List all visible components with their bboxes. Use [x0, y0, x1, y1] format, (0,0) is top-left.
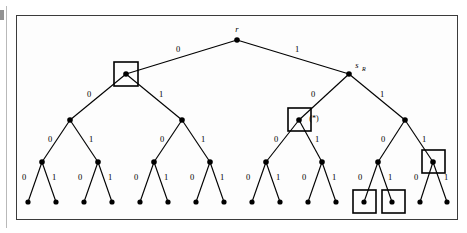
edge-label-22: 0: [246, 172, 250, 182]
edge-label-23: 1: [276, 172, 280, 182]
edge-label-5: 1: [380, 89, 384, 99]
tree-edge-n00-1: [70, 120, 98, 162]
edge-label-10: 0: [274, 134, 278, 144]
edge-label-26: 0: [358, 172, 362, 182]
edge-label-14: 0: [22, 172, 26, 182]
edge-label-20: 0: [190, 172, 194, 182]
tree-node-n0: [123, 71, 129, 77]
tree-node-l8: [249, 199, 254, 204]
edge-label-12: 0: [381, 134, 385, 144]
tree-node-l15: [444, 199, 449, 204]
edge-labels-group: 010101010101010101010101010101: [22, 44, 448, 182]
edge-label-4: 0: [311, 89, 315, 99]
tree-edge-n000-1: [42, 162, 56, 202]
tree-edge-n010-0: [140, 162, 154, 202]
tree-node-n110: [375, 159, 381, 165]
edge-label-17: 1: [108, 172, 112, 182]
tree-node-l2: [81, 199, 86, 204]
tree-node-n010: [151, 159, 157, 165]
tree-node-n11: [402, 117, 408, 123]
edge-label-2: 0: [87, 89, 91, 99]
tree-node-l11: [333, 199, 338, 204]
tree-edge-r-1: [237, 40, 349, 74]
tree-edge-n01-1: [182, 120, 210, 162]
tree-edge-n011-1: [210, 162, 224, 202]
tree-node-l13: [389, 199, 394, 204]
edge-label-27: 1: [388, 172, 392, 182]
edge-label-11: 1: [315, 134, 319, 144]
sr-label: s: [355, 60, 359, 70]
tree-edge-n000-0: [28, 162, 42, 202]
tree-node-l3: [109, 199, 114, 204]
edge-label-18: 0: [134, 172, 138, 182]
tree-edge-n001-0: [84, 162, 98, 202]
edge-label-3: 1: [159, 89, 163, 99]
edge-label-7: 1: [89, 134, 93, 144]
tree-node-n001: [95, 159, 101, 165]
tree-node-n10: [296, 117, 302, 123]
edge-label-1: 1: [295, 44, 299, 54]
tree-node-n1: [346, 71, 352, 77]
tree-edge-n0-0: [70, 74, 126, 120]
tree-edge-n001-1: [98, 162, 112, 202]
tree-edge-n11-1: [405, 120, 433, 162]
tree-node-l4: [137, 199, 142, 204]
edge-label-21: 1: [220, 172, 224, 182]
tree-edge-n1-1: [349, 74, 405, 120]
tree-node-l14: [417, 199, 422, 204]
tree-node-n000: [39, 159, 45, 165]
tree-node-l1: [53, 199, 58, 204]
edge-label-29: 1: [444, 172, 448, 182]
starred-label: (*): [309, 114, 319, 123]
tree-edge-n110-1: [378, 162, 392, 202]
edge-label-9: 1: [201, 134, 205, 144]
tree-edge-n0-1: [126, 74, 182, 120]
tree-node-l7: [221, 199, 226, 204]
edge-label-0: 0: [176, 44, 180, 54]
sr-label-subscript: R: [361, 66, 366, 72]
tree-nodes-group: [25, 37, 449, 204]
tree-node-n111: [430, 159, 436, 165]
edge-label-6: 0: [48, 134, 52, 144]
tree-diagram-canvas: 010101010101010101010101010101 rsR(*): [0, 0, 467, 233]
tree-node-r: [234, 37, 240, 43]
tree-edge-n10-0: [266, 120, 299, 162]
tree-edge-n010-1: [154, 162, 168, 202]
tree-edge-n100-1: [266, 162, 280, 202]
tree-edge-n101-0: [308, 162, 322, 202]
tree-edge-n011-0: [196, 162, 210, 202]
tree-node-l12: [361, 199, 366, 204]
edge-label-24: 0: [302, 172, 306, 182]
edge-label-13: 1: [422, 134, 426, 144]
root-label: r: [235, 24, 239, 34]
edge-label-8: 0: [160, 134, 164, 144]
edge-label-28: 0: [414, 172, 418, 182]
tree-node-n00: [67, 117, 73, 123]
tree-node-n011: [207, 159, 213, 165]
edge-label-25: 1: [332, 172, 336, 182]
tree-node-l5: [165, 199, 170, 204]
tree-node-n100: [263, 159, 269, 165]
edge-label-16: 0: [78, 172, 82, 182]
tree-edge-n00-0: [42, 120, 70, 162]
tree-edge-n1-0: [299, 74, 349, 120]
tree-edges-group: [28, 40, 447, 202]
tree-node-l0: [25, 199, 30, 204]
tree-edge-n01-0: [154, 120, 182, 162]
tree-edge-n100-0: [252, 162, 266, 202]
tree-node-l9: [277, 199, 282, 204]
tree-edge-r-0: [126, 40, 237, 74]
tree-node-n01: [179, 117, 185, 123]
tree-edge-n101-1: [322, 162, 336, 202]
edge-label-15: 1: [52, 172, 56, 182]
edge-label-19: 1: [164, 172, 168, 182]
tree-node-l10: [305, 199, 310, 204]
tree-node-l6: [193, 199, 198, 204]
tree-node-n101: [319, 159, 325, 165]
